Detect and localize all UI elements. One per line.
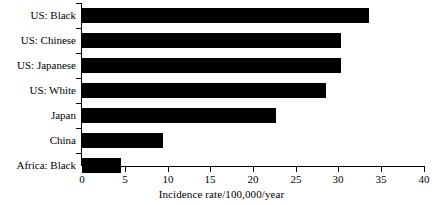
x-axis-title: Incidence rate/100,000/year [0, 188, 443, 200]
bar-africa-black [82, 158, 121, 173]
y-axis-tick-label: Africa: Black [2, 160, 76, 171]
y-axis-tick [76, 53, 81, 54]
x-axis-tick-label: 15 [195, 174, 225, 185]
plot-area [82, 3, 424, 166]
bar-us-chinese [82, 33, 341, 48]
bar-us-white [82, 83, 326, 98]
x-axis-tick-label: 10 [153, 174, 183, 185]
x-axis-tick [82, 167, 83, 172]
y-axis-tick-label: US: Black [2, 10, 76, 21]
y-axis-tick [76, 78, 81, 79]
y-axis-tick-label: Japan [2, 110, 76, 121]
x-axis-tick-label: 40 [409, 174, 439, 185]
bar-us-japanese [82, 58, 341, 73]
x-axis-tick-label: 0 [67, 174, 97, 185]
x-axis-tick-label: 5 [110, 174, 140, 185]
x-axis-tick [210, 167, 211, 172]
y-axis-tick [76, 153, 81, 154]
x-axis-tick [296, 167, 297, 172]
x-axis-tick-label: 20 [238, 174, 268, 185]
y-axis-tick-label: China [2, 135, 76, 146]
x-axis-tick-label: 30 [323, 174, 353, 185]
bar-japan [82, 108, 276, 123]
x-axis-tick-label: 35 [366, 174, 396, 185]
y-axis-tick-label-group: US: Black US: Chinese US: Japanese US: W… [0, 0, 76, 205]
y-axis-tick [76, 28, 81, 29]
x-axis-tick [338, 167, 339, 172]
y-axis-tick [76, 128, 81, 129]
x-axis-tick [125, 167, 126, 172]
x-axis-tick [381, 167, 382, 172]
y-axis-tick [76, 3, 81, 4]
x-axis-tick [168, 167, 169, 172]
y-axis-tick-label: US: Chinese [2, 35, 76, 46]
bar-china [82, 133, 163, 148]
y-axis-tick-label: US: Japanese [2, 60, 76, 71]
x-axis-tick-label: 25 [281, 174, 311, 185]
y-axis-tick-label: US: White [2, 85, 76, 96]
bar-us-black [82, 8, 369, 23]
x-axis-tick [253, 167, 254, 172]
bar-chart-figure: US: Black US: Chinese US: Japanese US: W… [0, 0, 443, 205]
x-axis-tick [424, 167, 425, 172]
y-axis-tick [76, 103, 81, 104]
